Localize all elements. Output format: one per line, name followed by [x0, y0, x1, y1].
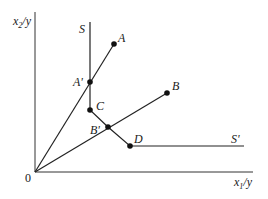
label-B: B [172, 79, 180, 93]
label-A-prime: A' [72, 75, 83, 89]
point-B [164, 90, 170, 96]
x-axis-label: x1/y [233, 175, 253, 191]
label-D: D [133, 132, 143, 146]
label-B-prime: B' [90, 123, 100, 137]
label-A: A [117, 31, 126, 45]
origin-label: 0 [25, 171, 31, 185]
point-D [127, 143, 133, 149]
label-S-prime: S' [231, 132, 240, 146]
point-A [111, 41, 117, 47]
point-C [87, 107, 93, 113]
isoquant-curve [90, 22, 244, 146]
label-C: C [96, 99, 105, 113]
point-A-prime [87, 79, 93, 85]
y-axis-label: x2/y [12, 14, 32, 30]
isoquant-diagram: x2/y x1/y 0 S A A' C B' B D S' [0, 0, 268, 199]
point-B-prime [105, 124, 111, 130]
label-S: S [79, 22, 85, 36]
